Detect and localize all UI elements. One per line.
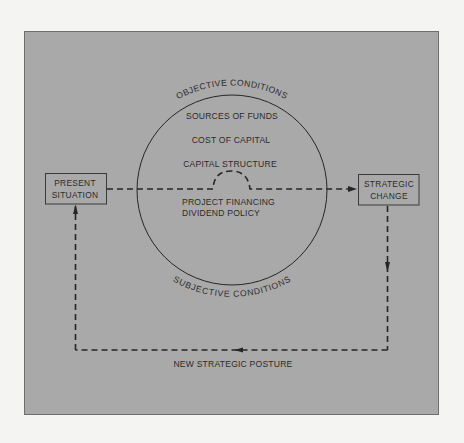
circle-item-sources-of-funds: SOURCES OF FUNDS: [186, 111, 278, 121]
strategic-change-line2: CHANGE: [370, 191, 408, 201]
present-situation-line2: SITUATION: [52, 190, 99, 200]
strategic-finance-diagram: OBJECTIVE CONDITIONS SUBJECTIVE CONDITIO…: [0, 0, 464, 443]
new-strategic-posture-label: NEW STRATEGIC POSTURE: [173, 359, 292, 369]
node-present-situation: PRESENT SITUATION: [46, 174, 107, 205]
circle-item-dividend-policy: DIVIDEND POLICY: [182, 208, 260, 218]
circle-item-project-financing: PROJECT FINANCING: [182, 197, 275, 207]
diagram-panel: [25, 32, 439, 415]
present-situation-line1: PRESENT: [54, 178, 96, 188]
circle-item-cost-of-capital: COST OF CAPITAL: [192, 135, 271, 145]
strategic-change-line1: STRATEGIC: [364, 179, 414, 189]
circle-item-capital-structure: CAPITAL STRUCTURE: [183, 159, 277, 169]
node-strategic-change: STRATEGIC CHANGE: [359, 175, 420, 206]
